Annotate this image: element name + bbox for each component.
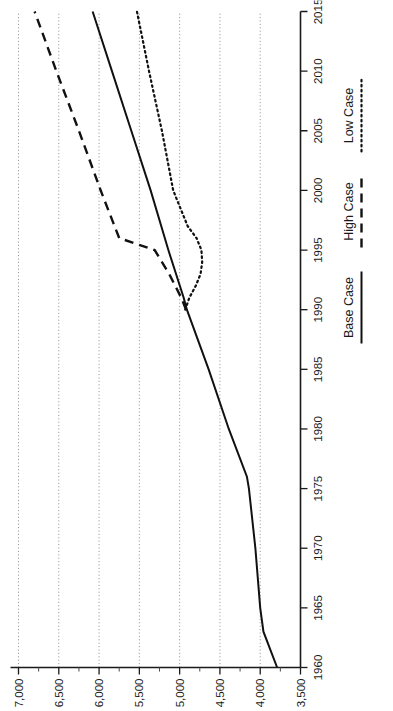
line-chart: 1960196519701975198019851990199520002005… (0, 0, 393, 711)
series-base-case (92, 11, 277, 667)
y-tick-label: 5,000 (173, 678, 185, 707)
data-series (34, 11, 277, 667)
x-tick-label: 1985 (311, 356, 323, 382)
legend-base-case: Base Case (341, 276, 355, 337)
x-tick-label: 1995 (311, 237, 323, 263)
rotated-figure-container: 1960196519701975198019851990199520002005… (0, 0, 393, 711)
x-tick-label: 1965 (311, 595, 323, 621)
legend-low-case: Low Case (341, 87, 355, 143)
y-axis: 3,5004,0004,5005,0005,5006,0006,5007,000 (10, 667, 306, 707)
series-high-case (34, 11, 185, 309)
x-tick-label: 2000 (311, 177, 323, 203)
x-tick-label: 1980 (311, 416, 323, 442)
x-tick-label: 1960 (311, 654, 323, 680)
series-low-case (136, 11, 201, 309)
x-tick-label: 2005 (311, 117, 323, 143)
x-tick-label: 2010 (311, 58, 323, 84)
y-tick-label: 4,500 (213, 678, 225, 707)
y-tick-label: 7,000 (12, 678, 24, 707)
y-tick-label: 5,500 (133, 678, 145, 707)
x-tick-label: 1975 (311, 475, 323, 501)
y-tick-label: 6,000 (93, 678, 105, 707)
x-tick-label: 1990 (311, 296, 323, 322)
y-tick-label: 6,500 (52, 678, 64, 707)
gridlines (18, 11, 260, 667)
x-axis: 1960196519701975198019851990199520002005… (300, 0, 323, 680)
x-tick-label: 1970 (311, 535, 323, 561)
y-tick-label: 3,500 (294, 678, 306, 707)
x-tick-label: 2015 (311, 0, 323, 24)
y-tick-label: 4,000 (254, 678, 266, 707)
chart-legend: Base CaseHigh CaseLow Case (341, 79, 361, 343)
legend-high-case: High Case (341, 182, 355, 240)
